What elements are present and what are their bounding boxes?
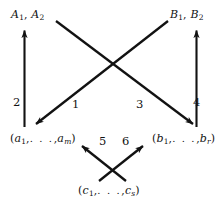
node-label-top-left: A1, A2	[11, 8, 44, 21]
b-tuple-first-sub: 1	[164, 137, 169, 146]
b-tuple-first-base: b	[157, 132, 164, 145]
node-A1-base: A	[11, 8, 19, 21]
c-tuple-last-sub: s	[131, 189, 135, 198]
node-A1-sub: 1	[19, 13, 24, 22]
b-tuple-close-paren: )	[211, 132, 216, 145]
node-label-bottom-right: (b1,. . .,br)	[152, 132, 215, 145]
b-tuple-last-sub: r	[207, 137, 211, 146]
edge-label-5: 5	[99, 134, 106, 148]
b-tuple-last-base: b	[200, 132, 207, 145]
a-tuple-first-sub: 1	[21, 137, 26, 146]
a-tuple-last-sub: m	[64, 137, 71, 146]
node-label-bottom-left: (a1,. . .,am)	[10, 132, 76, 145]
edge-label-2: 2	[13, 95, 20, 109]
arrow-diagram-figure: A1, A2 B1, B2 (a1,. . .,am) (b1,. . .,br…	[0, 0, 222, 207]
c-tuple-ellipsis: . . .	[97, 185, 121, 196]
edge-label-1: 1	[72, 97, 79, 111]
node-label-top-right: B1, B2	[170, 8, 204, 21]
edge-label-4: 4	[193, 95, 200, 109]
node-B1-sub: 1	[178, 13, 183, 22]
edge-label-6: 6	[122, 134, 129, 148]
a-tuple-ellipsis: . . .	[30, 133, 54, 144]
diagram-canvas	[0, 0, 222, 207]
c-tuple-first-sub: 1	[89, 189, 94, 198]
a-tuple-close-paren: )	[71, 132, 76, 145]
node-B2-sub: 2	[199, 13, 204, 22]
b-tuple-ellipsis: . . .	[172, 133, 196, 144]
edge-1-arrow	[36, 21, 168, 124]
node-A2-sub: 2	[40, 13, 45, 22]
node-A2-base: A	[31, 8, 39, 21]
node-label-bottom-center: (c1,. . .,cs)	[78, 184, 140, 197]
edge-label-3: 3	[136, 97, 143, 111]
node-B2-base: B	[190, 8, 198, 21]
c-tuple-close-paren: )	[135, 184, 140, 197]
c-tuple-first-base: c	[83, 184, 89, 197]
